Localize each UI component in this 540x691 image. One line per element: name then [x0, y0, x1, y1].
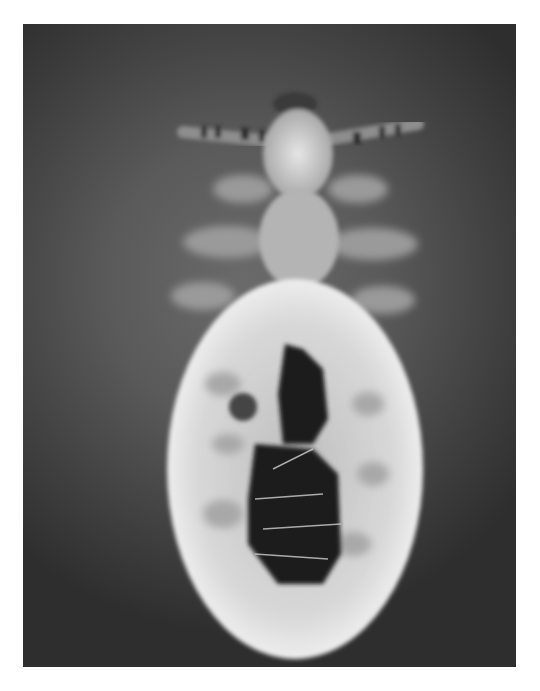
head	[263, 92, 333, 199]
thorax	[259, 189, 339, 289]
louse-photograph: Grayscale micrograph of a louse showing …	[23, 24, 516, 667]
louse-illustration	[23, 24, 516, 667]
abdomen	[167, 279, 423, 659]
